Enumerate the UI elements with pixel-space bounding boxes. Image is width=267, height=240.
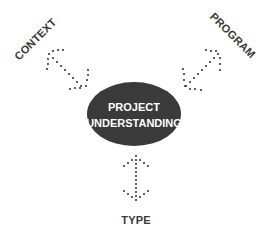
context-label: CONTEXT [12,16,59,63]
type-arrow [123,155,149,201]
center-ellipse [87,82,181,146]
program-arrow [182,49,221,91]
center-node: PROJECT UNDERSTANDING [86,82,182,146]
center-label-line2: UNDERSTANDING [86,117,182,129]
type-label: TYPE [121,214,151,226]
program-label: PROGRAM [208,10,258,60]
diagram-canvas: PROJECT UNDERSTANDING [0,0,267,240]
context-arrow [46,49,89,90]
center-label-line1: PROJECT [108,101,160,113]
